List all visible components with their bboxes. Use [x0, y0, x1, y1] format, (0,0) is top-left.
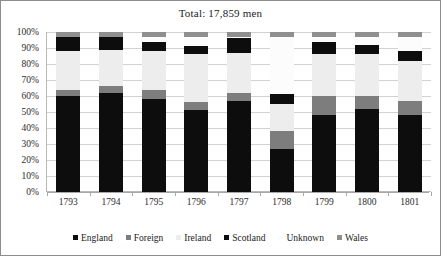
bar-column-1801[interactable] [388, 32, 431, 192]
bar-segment-foreign[interactable] [398, 101, 422, 115]
bar-segment-wales[interactable] [142, 32, 166, 37]
x-axis-tick [346, 192, 347, 196]
bar-segment-foreign[interactable] [270, 131, 294, 149]
bar-segment-ireland[interactable] [184, 54, 208, 102]
x-axis-tick [431, 192, 432, 196]
bar-segment-scotland[interactable] [56, 37, 80, 51]
bar-stack [270, 32, 294, 192]
bar-segment-england[interactable] [355, 109, 379, 192]
y-axis-tick-label: 90% [22, 43, 39, 53]
bar-segment-unknown[interactable] [398, 37, 422, 51]
bar-column-1795[interactable] [132, 32, 175, 192]
y-axis-tick-label: 80% [22, 59, 39, 69]
bar-segment-england[interactable] [398, 115, 422, 192]
bar-segment-ireland[interactable] [56, 51, 80, 89]
x-axis-tick [218, 192, 219, 196]
bar-stack [398, 32, 422, 192]
bar-segment-foreign[interactable] [355, 96, 379, 109]
bar-segment-wales[interactable] [398, 32, 422, 37]
bar-segment-unknown[interactable] [142, 37, 166, 42]
bar-segment-england[interactable] [142, 99, 166, 192]
bar-stack [312, 32, 336, 192]
bar-segment-wales[interactable] [56, 32, 80, 37]
bar-segment-ireland[interactable] [142, 51, 166, 89]
bar-segment-wales[interactable] [99, 32, 123, 37]
bar-segment-scotland[interactable] [142, 42, 166, 52]
bar-segment-ireland[interactable] [312, 54, 336, 96]
bar-segment-scotland[interactable] [99, 37, 123, 50]
x-axis-tick [303, 192, 304, 196]
bar-segment-foreign[interactable] [56, 90, 80, 96]
y-axis-tick-label: 20% [22, 155, 39, 165]
legend-item-foreign[interactable]: Foreign [126, 233, 164, 243]
legend-item-england[interactable]: England [73, 233, 113, 243]
bar-segment-england[interactable] [270, 149, 294, 192]
x-axis-tick-label: 1797 [218, 197, 261, 207]
legend-label: England [81, 233, 113, 243]
bar-segment-england[interactable] [56, 96, 80, 192]
legend-item-unknown[interactable]: Unknown [278, 233, 323, 243]
bar-segment-wales[interactable] [184, 32, 208, 37]
x-axis-tick-label: 1801 [388, 197, 431, 207]
legend-swatch-icon [224, 235, 229, 240]
x-axis-tick [90, 192, 91, 196]
bar-segment-wales[interactable] [312, 32, 336, 37]
bar-column-1796[interactable] [175, 32, 218, 192]
legend-item-wales[interactable]: Wales [337, 233, 368, 243]
bar-segment-england[interactable] [99, 93, 123, 192]
legend-swatch-icon [73, 235, 78, 240]
bar-column-1799[interactable] [303, 32, 346, 192]
bar-segment-unknown[interactable] [312, 37, 336, 42]
bar-segment-foreign[interactable] [142, 90, 166, 100]
bar-column-1794[interactable] [90, 32, 133, 192]
y-axis-tick-label: 0% [26, 187, 39, 197]
y-axis-tick-label: 40% [22, 123, 39, 133]
legend-label: Foreign [134, 233, 164, 243]
bar-segment-foreign[interactable] [227, 93, 251, 101]
x-axis-tick-label: 1800 [346, 197, 389, 207]
bar-segment-wales[interactable] [355, 32, 379, 37]
bar-segment-scotland[interactable] [398, 51, 422, 61]
bar-column-1800[interactable] [346, 32, 389, 192]
bar-segment-scotland[interactable] [184, 46, 208, 54]
bar-segment-scotland[interactable] [227, 38, 251, 52]
bar-segment-ireland[interactable] [99, 50, 123, 87]
y-axis-tick-label: 50% [22, 107, 39, 117]
bar-segment-ireland[interactable] [227, 53, 251, 93]
bar-segment-unknown[interactable] [355, 37, 379, 45]
legend-swatch-icon [278, 235, 283, 240]
bar-segment-scotland[interactable] [270, 94, 294, 104]
bar-segment-foreign[interactable] [312, 96, 336, 115]
legend-label: Wales [345, 233, 368, 243]
y-axis-labels: 0%10%20%30%40%50%60%70%80%90%100% [1, 32, 43, 192]
bar-segment-ireland[interactable] [270, 104, 294, 131]
bar-column-1797[interactable] [218, 32, 261, 192]
bar-segment-ireland[interactable] [355, 54, 379, 96]
bar-stack [227, 32, 251, 192]
bar-segment-foreign[interactable] [99, 86, 123, 92]
bar-segment-scotland[interactable] [312, 42, 336, 55]
legend-item-ireland[interactable]: Ireland [176, 233, 211, 243]
bar-segment-ireland[interactable] [398, 61, 422, 101]
bar-column-1793[interactable] [47, 32, 90, 192]
chart-container: Total: 17,859 men 0%10%20%30%40%50%60%70… [0, 0, 441, 256]
bar-segment-england[interactable] [184, 110, 208, 192]
legend-label: Ireland [184, 233, 211, 243]
bar-column-1798[interactable] [260, 32, 303, 192]
legend-item-scotland[interactable]: Scotland [224, 233, 265, 243]
bar-segment-england[interactable] [312, 115, 336, 192]
bar-segment-unknown[interactable] [270, 37, 294, 95]
bar-segment-england[interactable] [227, 101, 251, 192]
bar-segment-wales[interactable] [270, 32, 294, 37]
bar-stack [99, 32, 123, 192]
bar-segment-unknown[interactable] [184, 37, 208, 47]
bar-segment-wales[interactable] [227, 32, 251, 37]
legend-swatch-icon [337, 235, 342, 240]
bar-segment-scotland[interactable] [355, 45, 379, 55]
bar-stack [142, 32, 166, 192]
bar-segment-unknown[interactable] [227, 37, 251, 39]
y-axis-tick-label: 60% [22, 91, 39, 101]
bar-segment-foreign[interactable] [184, 102, 208, 110]
x-axis-labels: 179317941795179617971798179918001801 [47, 197, 431, 207]
x-axis-tick-label: 1796 [175, 197, 218, 207]
